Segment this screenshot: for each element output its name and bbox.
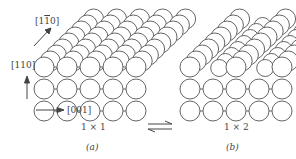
label-1-10-suffix: 0]	[50, 16, 59, 26]
front-face-atom	[126, 79, 146, 99]
structure-label-a: 1 × 1	[81, 123, 106, 132]
front-face-atom	[126, 57, 146, 77]
front-face-atom	[226, 101, 246, 121]
front-face-atom	[203, 79, 223, 99]
subsurface-atom	[257, 60, 274, 77]
front-face-atom	[126, 101, 146, 121]
front-face-atom	[226, 57, 246, 77]
direction-110-arrow-icon	[25, 76, 30, 99]
direction-1-10-arrow-icon	[34, 28, 51, 46]
label-direction-1-10: [110]	[35, 17, 59, 26]
front-face-atom	[180, 101, 200, 121]
label-1-10-prefix: [1	[35, 16, 44, 26]
front-face-atom	[103, 57, 123, 77]
front-face-atom	[103, 101, 123, 121]
label-direction-001: [001]	[67, 106, 91, 115]
front-face-atom	[34, 79, 54, 99]
front-face-atom	[249, 101, 269, 121]
caption-b: (b)	[226, 143, 239, 152]
front-face-atom	[103, 79, 123, 99]
front-face-atom	[226, 79, 246, 99]
structure-label-b: 1 × 2	[224, 123, 249, 132]
front-face-atom	[80, 79, 100, 99]
front-face-atom	[80, 57, 100, 77]
front-face-atom	[249, 79, 269, 99]
front-face-atom	[57, 79, 77, 99]
front-face-atom	[57, 57, 77, 77]
front-face-atom	[272, 101, 292, 121]
front-face-atom	[203, 101, 223, 121]
label-direction-110: [110]	[11, 61, 35, 70]
subsurface-atom	[211, 60, 228, 77]
front-face-atom	[34, 101, 54, 121]
front-face-atom	[34, 57, 54, 77]
front-face-atom	[272, 57, 292, 77]
panel-b-1x2-surface	[180, 9, 296, 121]
front-face-atom	[180, 79, 200, 99]
front-face-atom	[180, 57, 200, 77]
caption-a: (a)	[86, 143, 98, 152]
front-face-atom	[272, 79, 292, 99]
equilibrium-arrows-icon	[148, 121, 172, 132]
